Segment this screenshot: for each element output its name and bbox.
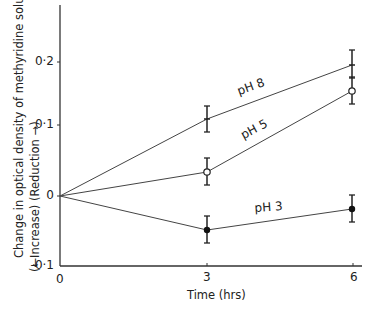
- y-tick-label: -0·1: [24, 258, 54, 272]
- series-ph3: [60, 195, 355, 243]
- series-label-ph3: pH 3: [254, 199, 283, 215]
- y-tick-label: 0: [24, 188, 54, 202]
- x-tick-label: 6: [350, 270, 358, 284]
- filled-circle-marker: [204, 227, 210, 233]
- y-tick-label: 0·2: [24, 54, 54, 68]
- filled-circle-marker: [349, 206, 355, 212]
- open-circle-marker: [349, 88, 355, 94]
- x-tick-label: 3: [203, 270, 211, 284]
- x-axis-title: Time (hrs): [187, 288, 246, 302]
- y-tick-label: 0·1: [24, 117, 54, 131]
- open-circle-marker: [204, 169, 210, 175]
- x-tick-label: 0: [56, 272, 64, 286]
- chart-plot-area: [0, 0, 369, 309]
- series-ph5: [60, 77, 355, 196]
